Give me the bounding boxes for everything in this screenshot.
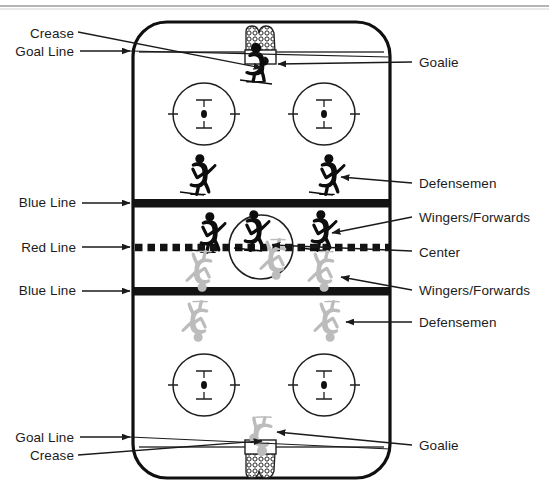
hockey-rink-diagram	[0, 0, 549, 504]
label-wingers-forwards-top: Wingers/Forwards	[419, 210, 530, 225]
blue-line-bottom	[134, 287, 389, 296]
label-defensemen-top: Defensemen	[419, 176, 497, 191]
label-blue-line-top: Blue Line	[0, 195, 76, 210]
label-crease-top: Crease	[0, 26, 74, 41]
top-border-rule	[0, 6, 549, 9]
label-goal-line-bottom: Goal Line	[0, 430, 74, 445]
label-defensemen-bottom: Defensemen	[419, 315, 497, 330]
label-red-line: Red Line	[0, 240, 76, 255]
blue-line-top	[134, 199, 389, 208]
label-blue-line-bottom: Blue Line	[0, 283, 76, 298]
label-goal-line-top: Goal Line	[0, 44, 74, 59]
label-crease-bottom: Crease	[0, 448, 74, 463]
label-goalie-bottom: Goalie	[419, 438, 459, 453]
label-center: Center	[419, 245, 460, 260]
label-goalie-top: Goalie	[419, 55, 459, 70]
label-wingers-forwards-bottom: Wingers/Forwards	[419, 283, 530, 298]
